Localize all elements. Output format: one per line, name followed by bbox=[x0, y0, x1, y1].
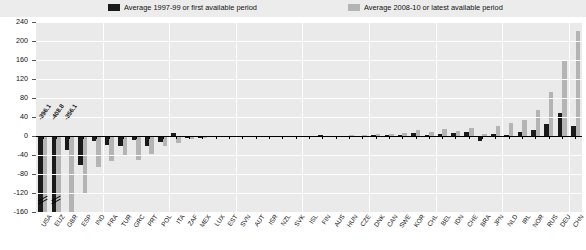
x-axis-label-rus: RUS bbox=[545, 213, 558, 228]
x-axis-label-nld: NLD bbox=[505, 213, 518, 227]
gridline-horizontal bbox=[36, 174, 582, 175]
x-axis-label-fin: FIN bbox=[320, 213, 332, 225]
x-axis-label-deu: DEU bbox=[558, 213, 571, 228]
gridline-vertical bbox=[103, 22, 104, 212]
x-axis-label-ind: IND bbox=[94, 213, 106, 226]
legend-swatch-series1 bbox=[108, 4, 120, 11]
gridline-horizontal bbox=[36, 79, 582, 80]
x-axis-label-svk: SVK bbox=[292, 213, 305, 227]
gridline-vertical bbox=[369, 22, 370, 212]
gridline-horizontal bbox=[36, 155, 582, 156]
x-axis-label-prt: PRT bbox=[146, 213, 159, 227]
plot-area: -396.1-408.8-356.1 bbox=[36, 22, 582, 212]
legend-label-series2: Average 2008-10 or latest available peri… bbox=[364, 3, 503, 12]
gridline-horizontal bbox=[36, 60, 582, 61]
x-axis-label-gbr: GBR bbox=[65, 213, 79, 228]
legend-label-series1: Average 1997-99 or first available perio… bbox=[124, 3, 257, 12]
x-axis-label-usa: USA bbox=[39, 213, 52, 228]
x-axis-label-zaf: ZAF bbox=[186, 213, 199, 227]
x-axis-label-grc: GRC bbox=[132, 213, 146, 229]
x-axis-label-jpn: JPN bbox=[493, 213, 506, 227]
legend-swatch-series2 bbox=[348, 4, 360, 11]
bar-series2[interactable] bbox=[136, 136, 141, 160]
y-axis-tick-label: -40 bbox=[18, 151, 28, 159]
x-axis-label-cze: CZE bbox=[359, 213, 372, 227]
gridline-horizontal bbox=[36, 41, 582, 42]
gridline-horizontal bbox=[36, 22, 582, 23]
y-axis-tick-label: 80 bbox=[20, 94, 28, 102]
y-axis-tick-label: 40 bbox=[20, 113, 28, 121]
x-axis-label-chl: CHL bbox=[426, 213, 439, 227]
x-axis-label-mex: MEX bbox=[199, 213, 213, 228]
y-axis-tick-label: 160 bbox=[16, 56, 28, 64]
x-axis-label-aus: AUS bbox=[332, 213, 345, 228]
x-axis-label-isl: ISL bbox=[307, 213, 318, 225]
chart-root: Average 1997-99 or first available perio… bbox=[0, 0, 586, 250]
x-axis-label-chn: CHN bbox=[571, 213, 585, 228]
gridline-vertical bbox=[436, 22, 437, 212]
bar-series2[interactable] bbox=[496, 126, 501, 136]
legend-item-series1: Average 1997-99 or first available perio… bbox=[108, 3, 257, 12]
x-axis-label-bel: BEL bbox=[439, 213, 452, 227]
gridline-horizontal bbox=[36, 193, 582, 194]
x-axis-label-che: CHE bbox=[465, 213, 478, 228]
x-axis-label-svn: SVN bbox=[239, 213, 252, 228]
x-axis-label-fra: FRA bbox=[106, 213, 119, 227]
x-axis-label-aut: AUT bbox=[252, 213, 265, 227]
x-axis-label-lux: LUX bbox=[213, 213, 226, 227]
x-axis-label-kor: KOR bbox=[412, 213, 426, 228]
x-axis-label-pol: POL bbox=[159, 213, 172, 227]
x-axis-label-bra: BRA bbox=[479, 213, 492, 228]
x-axis-label-dnk: DNK bbox=[372, 213, 385, 228]
bar-series2[interactable] bbox=[442, 129, 447, 136]
axis-break-marker bbox=[38, 195, 47, 202]
x-axis-label-est: EST bbox=[226, 213, 239, 227]
y-axis-tick-label: -160 bbox=[14, 208, 28, 216]
x-axis-label-euz: EUZ bbox=[53, 213, 66, 227]
x-axis-label-tur: TUR bbox=[119, 213, 132, 228]
bar-series2[interactable] bbox=[109, 136, 114, 161]
x-axis-label-hun: HUN bbox=[345, 213, 359, 228]
y-axis-tick-label: 120 bbox=[16, 75, 28, 83]
x-axis-label-esp: ESP bbox=[79, 213, 92, 227]
gridline-horizontal bbox=[36, 117, 582, 118]
bar-series2[interactable] bbox=[83, 136, 88, 193]
axis-break-marker bbox=[51, 195, 60, 202]
gridline-vertical bbox=[302, 22, 303, 212]
bar-series2[interactable] bbox=[576, 31, 581, 136]
y-axis-tick-label: 240 bbox=[16, 18, 28, 26]
y-axis-tick-label: 0 bbox=[24, 132, 28, 140]
gridline-vertical bbox=[502, 22, 503, 212]
gridline-vertical bbox=[236, 22, 237, 212]
legend-item-series2: Average 2008-10 or latest available peri… bbox=[348, 3, 503, 12]
gridline-vertical bbox=[169, 22, 170, 212]
x-axis-label-nor: NOR bbox=[531, 213, 545, 229]
bar-series2[interactable] bbox=[469, 128, 474, 136]
x-axis-label-nzl: NZL bbox=[279, 213, 292, 227]
gridline-vertical bbox=[569, 22, 570, 212]
chart-legend: Average 1997-99 or first available perio… bbox=[0, 0, 586, 17]
x-axis-label-idn: IDN bbox=[453, 213, 465, 226]
zero-baseline bbox=[36, 136, 582, 137]
bar-series2[interactable] bbox=[96, 136, 101, 167]
bar-series2[interactable] bbox=[509, 123, 514, 136]
x-axis-label-swe: SWE bbox=[398, 213, 412, 229]
bar-series2[interactable] bbox=[536, 110, 541, 136]
x-axis-labels: USAEUZGBRESPINDFRATURGRCPRTPOLITAZAFMEXL… bbox=[36, 213, 582, 250]
y-axis-tick-label: -120 bbox=[14, 189, 28, 197]
y-axis-tick-label: 200 bbox=[16, 37, 28, 45]
y-axis-tick-label: -80 bbox=[18, 170, 28, 178]
gridline-horizontal bbox=[36, 98, 582, 99]
bar-series2[interactable] bbox=[522, 120, 527, 136]
x-axis-label-isr: ISR bbox=[267, 213, 279, 226]
x-axis-label-can: CAN bbox=[385, 213, 398, 228]
x-axis-label-ita: ITA bbox=[174, 213, 185, 225]
